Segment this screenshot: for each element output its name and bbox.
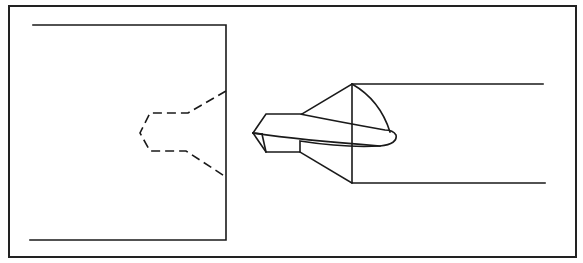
workpiece xyxy=(30,25,226,240)
workpiece-outline xyxy=(30,25,226,240)
countersink-tool xyxy=(253,84,545,183)
cone-upper-edge xyxy=(302,84,352,114)
cone-lower-edge xyxy=(300,152,352,183)
outer-frame xyxy=(9,6,576,257)
tip-facet-1 xyxy=(253,133,262,134)
tool-shank xyxy=(352,84,545,183)
countersink-diagram xyxy=(0,0,583,263)
countersink-hole-profile xyxy=(140,91,226,177)
